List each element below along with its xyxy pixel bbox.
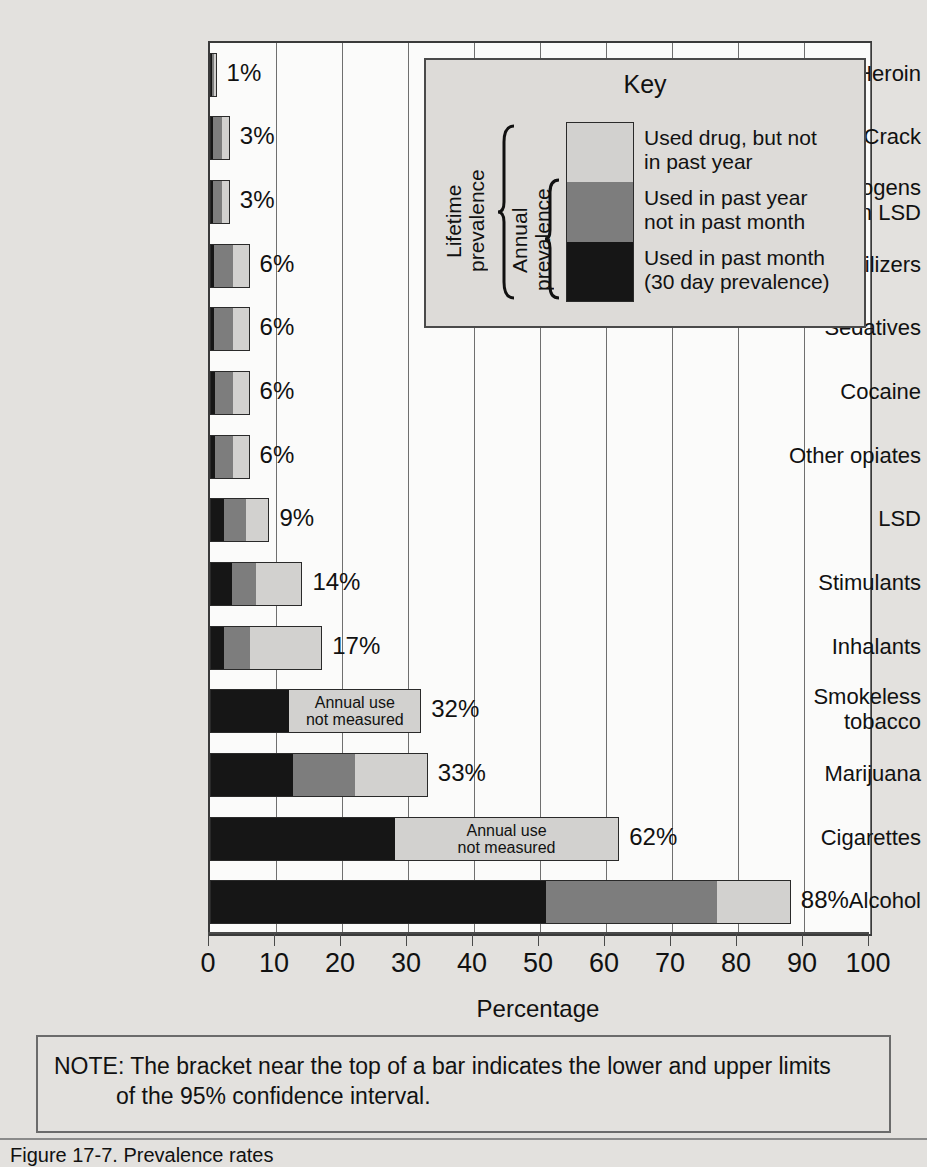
x-tick-70 (670, 932, 671, 946)
segment-past-year (224, 627, 250, 669)
category-label-inhalants: Inhalants (732, 633, 927, 658)
legend-text-past-year: Used in past year not in past month (644, 186, 807, 234)
value-label-sedatives: 6% (260, 313, 295, 341)
legend-swatch-past-month (567, 242, 633, 301)
x-tick-80 (736, 932, 737, 946)
x-axis-title: Percentage (208, 995, 868, 1023)
category-label-stimulants: Stimulants (732, 569, 927, 594)
gridline-30 (408, 43, 409, 934)
bar-hallucinogens-other-than-lsd (210, 180, 230, 224)
bar-smokeless-tobacco: Annual usenot measured (210, 689, 421, 733)
bar-other-opiates (210, 435, 250, 479)
caption-divider (0, 1138, 927, 1140)
segment-past-month (211, 563, 232, 605)
segment-past-month (211, 499, 224, 541)
category-label-smokeless-tobacco: Smokeless tobacco (732, 684, 927, 734)
value-label-marijuana: 33% (438, 759, 486, 787)
segment-past-year (215, 436, 233, 478)
x-tick-label-80: 80 (721, 948, 751, 979)
bar-inhalants (210, 626, 322, 670)
segment-past-year (293, 754, 355, 796)
bar-crack (210, 116, 230, 160)
value-label-cigarettes: 62% (629, 823, 677, 851)
x-tick-10 (274, 932, 275, 946)
x-tick-20 (340, 932, 341, 946)
category-label-other-opiates: Other opiates (732, 442, 927, 467)
lifetime-prevalence-label: Lifetime prevalence (442, 138, 488, 304)
x-tick-100 (868, 932, 869, 946)
bar-tranquilizers (210, 244, 250, 288)
x-tick-label-100: 100 (845, 948, 890, 979)
segment-lifetime (233, 245, 249, 287)
segment-lifetime (233, 372, 249, 414)
legend-text-lifetime: Used drug, but not in past year (644, 126, 817, 174)
annual-not-measured-line: Annual use (467, 822, 547, 839)
segment-past-year (215, 372, 233, 414)
segment-lifetime (222, 117, 229, 159)
segment-lifetime (256, 563, 301, 605)
annual-not-measured-line: Annual use (315, 694, 395, 711)
x-tick-label-90: 90 (787, 948, 817, 979)
segment-past-month (211, 881, 546, 923)
segment-past-month (211, 818, 395, 860)
bar-alcohol (210, 880, 791, 924)
x-tick-label-10: 10 (259, 948, 289, 979)
x-tick-label-40: 40 (457, 948, 487, 979)
legend-text-past-month: Used in past month (30 day prevalence) (644, 246, 830, 294)
figure-caption: Figure 17-7. Prevalence rates (10, 1144, 273, 1167)
x-tick-50 (538, 932, 539, 946)
note-line-1: NOTE: The bracket near the top of a bar … (54, 1053, 831, 1079)
note-box: NOTE: The bracket near the top of a bar … (36, 1035, 891, 1133)
category-label-cocaine: Cocaine (732, 379, 927, 404)
segment-lifetime (250, 627, 321, 669)
x-tick-label-30: 30 (391, 948, 421, 979)
x-tick-0 (208, 932, 209, 946)
value-label-tranquilizers: 6% (260, 250, 295, 278)
segment-lifetime (355, 754, 427, 796)
segment-past-month (211, 627, 224, 669)
bar-cigarettes: Annual usenot measured (210, 817, 619, 861)
segment-past-year (213, 117, 222, 159)
value-label-hallucinogens-other-than-lsd: 3% (240, 186, 275, 214)
value-label-other-opiates: 6% (260, 441, 295, 469)
value-label-cocaine: 6% (260, 377, 295, 405)
segment-past-year (224, 499, 246, 541)
category-label-marijuana: Marijuana (732, 760, 927, 785)
segment-past-month (211, 754, 293, 796)
annual-not-measured-line: not measured (306, 711, 404, 728)
legend-title: Key (426, 70, 864, 99)
segment-past-month (211, 690, 289, 732)
segment-lifetime (214, 54, 215, 96)
segment-annual-not-measured: Annual usenot measured (395, 818, 618, 860)
value-label-alcohol: 88% (801, 886, 849, 914)
value-label-crack: 3% (240, 122, 275, 150)
bar-marijuana (210, 753, 428, 797)
category-label-cigarettes: Cigarettes (732, 824, 927, 849)
legend-key-box: Key Lifetime prevalence Annual prevalenc… (424, 58, 866, 328)
x-tick-label-50: 50 (523, 948, 553, 979)
value-label-inhalants: 17% (332, 632, 380, 660)
value-label-smokeless-tobacco: 32% (431, 695, 479, 723)
x-tick-label-20: 20 (325, 948, 355, 979)
segment-lifetime (222, 181, 229, 223)
chart-area: Annual usenot measuredAnnual usenot meas… (0, 0, 927, 1035)
annual-brace (543, 178, 563, 300)
x-tick-90 (802, 932, 803, 946)
value-label-heroin: 1% (227, 59, 262, 87)
segment-annual-not-measured: Annual usenot measured (289, 690, 420, 732)
legend-swatch-stack (566, 122, 634, 302)
note-text: NOTE: The bracket near the top of a bar … (54, 1051, 873, 1111)
segment-past-year (213, 181, 222, 223)
bar-sedatives (210, 307, 250, 351)
segment-past-year (546, 881, 717, 923)
segment-lifetime (233, 308, 249, 350)
note-line-2: of the 95% confidence interval. (54, 1081, 873, 1111)
segment-lifetime (233, 436, 249, 478)
x-tick-30 (406, 932, 407, 946)
legend-swatch-lifetime (567, 123, 633, 182)
value-label-stimulants: 14% (312, 568, 360, 596)
x-tick-label-70: 70 (655, 948, 685, 979)
x-tick-label-0: 0 (200, 948, 215, 979)
segment-past-year (214, 308, 233, 350)
annual-not-measured-line: not measured (458, 839, 556, 856)
